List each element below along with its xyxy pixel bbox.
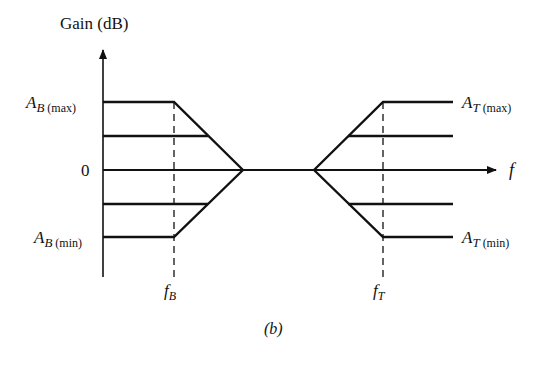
label-AT-max: AT(max) [461,93,511,115]
label-AB-min: AB(min) [33,228,82,250]
figure-caption: (b) [264,320,283,338]
label-fT: fT [373,281,386,303]
y-axis-label: Gain (dB) [60,14,128,33]
label-zero: 0 [81,161,90,180]
tone-control-gain-diagram: Gain (dB) AB(max) 0 AB(min) AT(max) AT(m… [0,0,551,369]
label-AB-max: AB(max) [25,93,76,115]
label-AT-min: AT(min) [461,228,509,250]
x-axis-label: f [509,160,517,180]
label-fB: fB [164,281,177,303]
